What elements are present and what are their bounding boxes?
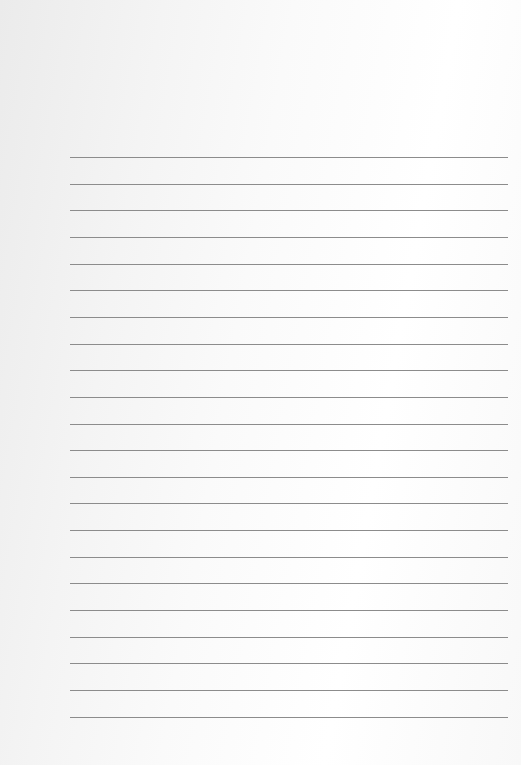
ruled-line [70, 397, 508, 398]
ruled-line [70, 450, 508, 451]
ruled-line [70, 370, 508, 371]
ruled-line [70, 424, 508, 425]
ruled-line [70, 610, 508, 611]
lined-paper-sheet [0, 0, 521, 765]
ruled-line [70, 184, 508, 185]
ruled-line [70, 317, 508, 318]
ruled-line [70, 477, 508, 478]
ruled-line [70, 583, 508, 584]
ruled-line [70, 663, 508, 664]
ruled-line [70, 157, 508, 158]
ruled-line [70, 237, 508, 238]
ruled-line [70, 290, 508, 291]
ruled-line [70, 264, 508, 265]
ruled-line [70, 503, 508, 504]
ruled-line [70, 717, 508, 718]
ruled-line [70, 557, 508, 558]
ruled-line [70, 344, 508, 345]
ruled-line [70, 637, 508, 638]
ruled-line [70, 210, 508, 211]
ruled-line [70, 530, 508, 531]
ruled-line [70, 690, 508, 691]
